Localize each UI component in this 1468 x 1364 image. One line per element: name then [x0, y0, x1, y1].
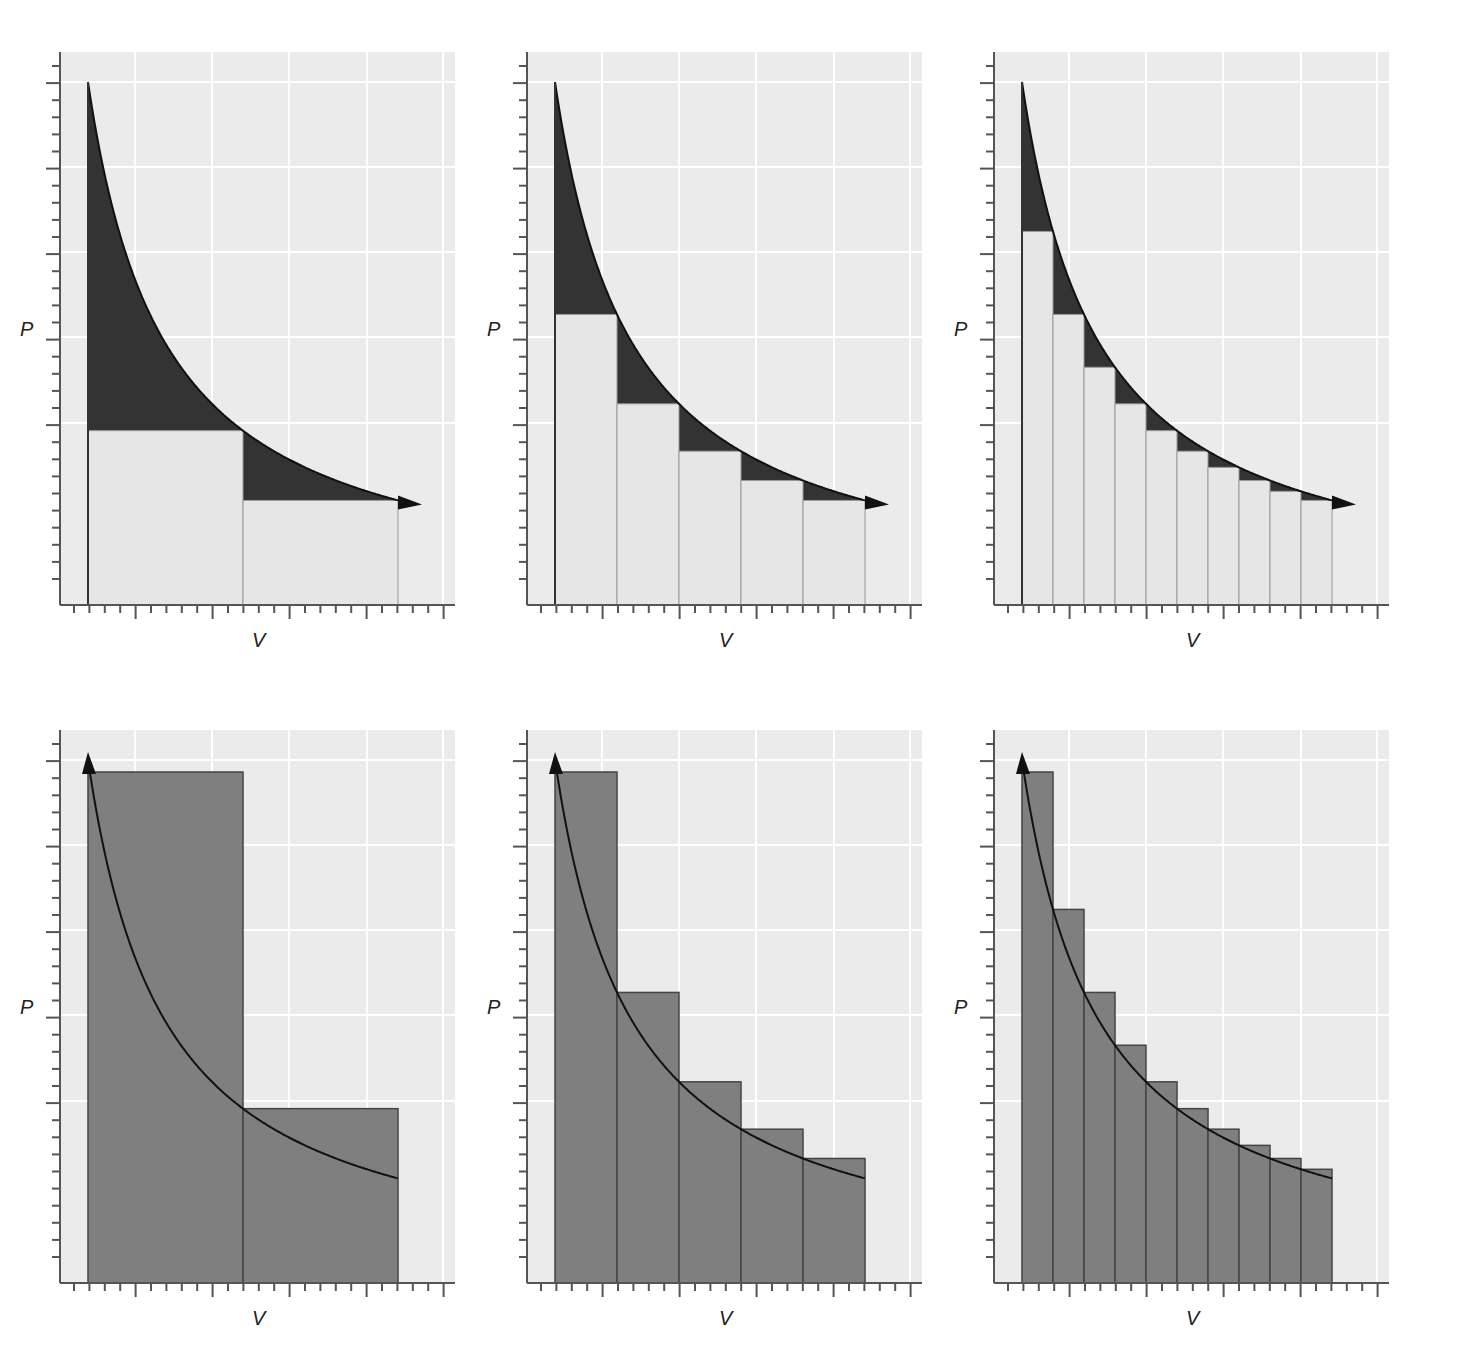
pv-panel-5: PV — [477, 718, 937, 1338]
pv-panel-2: PV — [477, 40, 937, 660]
y-axis-label: P — [20, 318, 34, 340]
y-axis-label: P — [20, 996, 34, 1018]
x-axis-label: V — [252, 1307, 267, 1329]
pv-panel-1: PV — [10, 40, 470, 660]
y-axis-label: P — [487, 318, 501, 340]
x-axis-label: V — [719, 629, 734, 651]
pv-panel-6: PV — [944, 718, 1404, 1338]
x-axis-label: V — [1186, 629, 1201, 651]
pv-panel-4: PV — [10, 718, 470, 1338]
y-axis-label: P — [954, 996, 968, 1018]
x-axis-label: V — [719, 1307, 734, 1329]
pv-panel-3: PV — [944, 40, 1404, 660]
y-axis-label: P — [487, 996, 501, 1018]
x-axis-label: V — [1186, 1307, 1201, 1329]
x-axis-label: V — [252, 629, 267, 651]
y-axis-label: P — [954, 318, 968, 340]
